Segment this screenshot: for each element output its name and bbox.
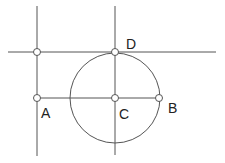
label-C: C <box>119 107 129 121</box>
label-B: B <box>168 101 177 115</box>
diagram-canvas: A B C D <box>0 0 225 163</box>
diagram-svg <box>0 0 225 163</box>
point-D <box>112 49 119 56</box>
label-D: D <box>126 37 136 51</box>
point-B <box>156 95 163 102</box>
point-A <box>34 95 41 102</box>
label-A: A <box>41 106 50 120</box>
lines-group <box>8 6 216 156</box>
point-intersection-top-left <box>34 49 41 56</box>
point-C <box>112 95 119 102</box>
